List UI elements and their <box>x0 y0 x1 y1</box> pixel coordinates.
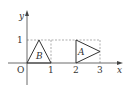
axes <box>8 13 120 85</box>
y-tick-1: 1 <box>17 35 23 45</box>
x-tick-1: 1 <box>48 65 54 75</box>
origin-label: O <box>17 65 24 75</box>
shape-b-label: B <box>35 51 43 61</box>
x-axis-label: x <box>117 65 122 75</box>
x-tick-3: 3 <box>97 65 103 75</box>
coordinate-diagram: y x O 1 1 2 3 B A <box>0 0 133 89</box>
y-axis-label: y <box>18 11 25 21</box>
y-axis-arrow-icon <box>25 10 29 16</box>
x-tick-2: 2 <box>73 65 79 75</box>
shape-a-label: A <box>77 47 85 57</box>
